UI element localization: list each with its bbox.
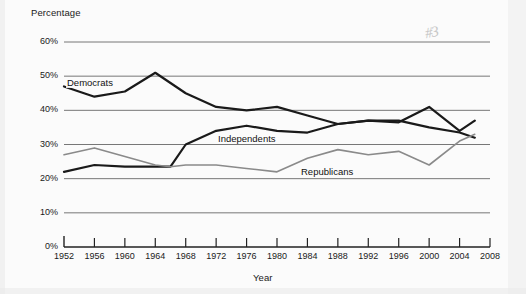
y-tick-label: 40% [14, 104, 58, 114]
series-line-democrats [64, 73, 475, 131]
edge-smudge-right [508, 0, 526, 294]
y-tick-label: 60% [14, 36, 58, 46]
series-label-republicans: Republicans [300, 166, 354, 177]
y-tick-label: 0% [14, 241, 58, 251]
edge-smudge-left [0, 0, 5, 294]
y-tick-label: 10% [14, 207, 58, 217]
edge-smudge-bottom [0, 288, 526, 294]
series-label-independents: Independents [217, 133, 277, 144]
x-tick-label: 2008 [472, 251, 508, 261]
chart-container: Percentage Year Democrats Independents R… [0, 0, 526, 294]
y-tick-label: 50% [14, 70, 58, 80]
series-label-democrats: Democrats [66, 77, 114, 88]
y-tick-label: 20% [14, 173, 58, 183]
series-line-independents [64, 121, 475, 172]
y-tick-label: 30% [14, 139, 58, 149]
line-chart-plot [0, 0, 526, 294]
